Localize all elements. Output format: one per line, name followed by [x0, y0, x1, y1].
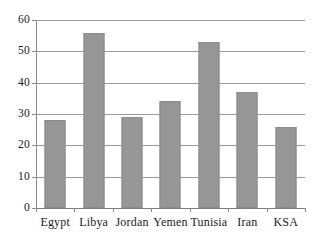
bar-slot-ksa [267, 20, 305, 208]
y-tick-label-20: 20 [2, 139, 30, 151]
bar-slot-jordan [113, 20, 151, 208]
y-tick-label-0: 0 [2, 202, 30, 214]
bar-ksa[interactable] [275, 127, 296, 208]
bar-slot-tunisia [190, 20, 228, 208]
bar-slot-libya [74, 20, 112, 208]
x-axis-category-labels: EgyptLibyaJordanYemenTunisiaIranKSA [36, 215, 305, 235]
x-tick-mark-2 [113, 208, 114, 212]
x-label-egypt: Egypt [36, 215, 74, 229]
x-tick-mark-5 [228, 208, 229, 212]
bar-chart: 0102030405060 EgyptLibyaJordanYemenTunis… [0, 0, 318, 243]
x-label-ksa: KSA [267, 215, 305, 229]
x-label-iran: Iran [228, 215, 266, 229]
bar-jordan[interactable] [122, 117, 143, 208]
y-tick-label-60: 60 [2, 14, 30, 26]
x-tick-mark-6 [267, 208, 268, 212]
x-tick-mark-3 [151, 208, 152, 212]
bar-slot-yemen [151, 20, 189, 208]
bar-libya[interactable] [83, 33, 104, 208]
y-tick-label-30: 30 [2, 108, 30, 120]
x-label-yemen: Yemen [151, 215, 189, 229]
bar-slot-iran [228, 20, 266, 208]
y-tick-label-40: 40 [2, 77, 30, 89]
x-tick-mark-4 [190, 208, 191, 212]
x-tick-mark-end [305, 208, 306, 212]
x-tick-mark-0 [36, 208, 37, 212]
bar-egypt[interactable] [45, 120, 66, 208]
bar-slot-egypt [36, 20, 74, 208]
bars-layer [36, 20, 305, 208]
x-label-libya: Libya [74, 215, 112, 229]
x-tick-mark-1 [74, 208, 75, 212]
x-axis-tick-marks [36, 208, 305, 213]
bar-tunisia[interactable] [198, 42, 219, 208]
x-label-tunisia: Tunisia [190, 215, 228, 229]
bar-iran[interactable] [237, 92, 258, 208]
y-tick-label-50: 50 [2, 45, 30, 57]
x-label-jordan: Jordan [113, 215, 151, 229]
bar-yemen[interactable] [160, 101, 181, 208]
y-tick-label-10: 10 [2, 171, 30, 183]
